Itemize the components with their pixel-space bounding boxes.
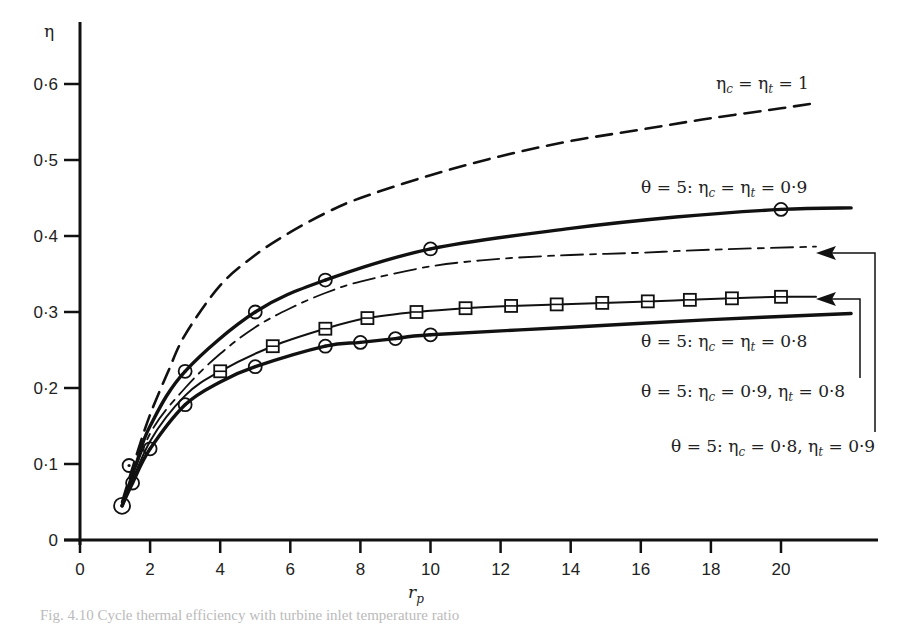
x-axis-label: rp (408, 582, 424, 606)
svg-text:θ = 5: ηc = ηt = 0·8: θ = 5: ηc = ηt = 0·8 (641, 331, 807, 354)
x-tick-label: 12 (491, 560, 510, 579)
marker-dot (359, 341, 362, 344)
x-tick-label: 6 (286, 560, 295, 579)
svg-text:θ = 5: ηc = 0·9, ηt = 0·8: θ = 5: ηc = 0·9, ηt = 0·8 (641, 381, 845, 404)
y-axis-label: η (44, 21, 54, 41)
leader-arrow-c08-t09 (816, 246, 875, 432)
svg-text:ηc = ηt = 1: ηc = ηt = 1 (716, 73, 809, 96)
leader-arrow-c09-t08 (816, 292, 860, 378)
x-tick-label: 0 (75, 560, 84, 579)
y-tick-label: 0·4 (33, 227, 58, 246)
annotation-ideal: ηc = ηt = 1 (716, 73, 809, 96)
annotation-c09-t08: θ = 5: ηc = 0·9, ηt = 0·8 (641, 381, 845, 404)
marker-dot (324, 345, 327, 348)
annotation-08-08: θ = 5: ηc = ηt = 0·8 (641, 331, 807, 354)
y-tick-label: 0·6 (33, 75, 58, 94)
x-tick-label: 8 (356, 560, 365, 579)
x-ticks: 02468101214161820 (75, 540, 790, 579)
figure-caption: Fig. 4.10 Cycle thermal efficiency with … (40, 607, 459, 624)
marker-dot (429, 333, 432, 336)
x-tick-label: 18 (701, 560, 720, 579)
y-tick-label: 0·2 (33, 379, 58, 398)
marker-dot (254, 310, 257, 313)
x-tick-label: 4 (215, 560, 224, 579)
svg-text:θ = 5: ηc = ηt = 0·9: θ = 5: ηc = ηt = 0·9 (641, 177, 807, 200)
x-tick-label: 16 (631, 560, 650, 579)
series-line (122, 208, 851, 506)
x-tick-label: 14 (561, 560, 580, 579)
annotation-09-09: θ = 5: ηc = ηt = 0·9 (641, 177, 807, 200)
x-tick-label: 2 (145, 560, 154, 579)
marker-dot (254, 365, 257, 368)
marker-dot (184, 403, 187, 406)
marker-dot (324, 278, 327, 281)
marker-dot (120, 504, 123, 507)
y-tick-label: 0 (49, 531, 58, 550)
svg-text:θ = 5: ηc = 0·8, ηt = 0·9: θ = 5: ηc = 0·8, ηt = 0·9 (671, 436, 875, 459)
marker-dot (184, 370, 187, 373)
y-tick-label: 0·5 (33, 151, 58, 170)
marker-dot (131, 481, 134, 484)
marker-dot (429, 247, 432, 250)
annotation-c08-t09: θ = 5: ηc = 0·8, ηt = 0·9 (671, 436, 875, 459)
marker-dot (394, 337, 397, 340)
marker-dot (149, 447, 152, 450)
marker-dot (127, 464, 130, 467)
x-tick-label: 20 (772, 560, 791, 579)
x-tick-label: 10 (421, 560, 440, 579)
y-tick-label: 0·3 (33, 303, 58, 322)
y-tick-label: 0·1 (33, 455, 58, 474)
y-ticks: 00·10·20·30·40·50·6 (33, 75, 80, 550)
marker-dot (779, 208, 782, 211)
